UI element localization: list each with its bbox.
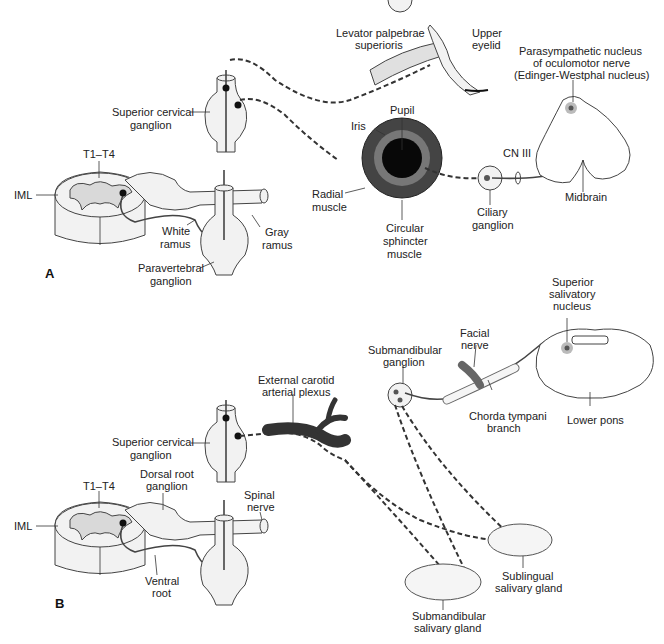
label-superior-cervical-ganglion-2: ganglion [130, 119, 172, 131]
panel-letter-b: B [55, 596, 64, 611]
label-paravertebral-ganglion: Paravertebral [138, 262, 204, 274]
label-ventral-root: Ventral [145, 575, 179, 587]
label-external-carotid: External carotid [258, 374, 334, 386]
label-superior-salivatory-nucleus-3: nucleus [553, 300, 591, 312]
label-dorsal-root-ganglion-2: ganglion [146, 480, 188, 492]
label-superior-cervical-ganglion: Superior cervical [112, 106, 194, 118]
preganglionic-neuron-a [120, 190, 127, 197]
label-chorda-tympani: Chorda tympani [469, 410, 547, 422]
label-dorsal-root-ganglion: Dorsal root [140, 468, 194, 480]
label-superior-salivatory-nucleus-2: salivatory [549, 288, 596, 300]
label-radial-muscle-2: muscle [312, 201, 347, 213]
label-ciliary-ganglion: Ciliary [477, 206, 508, 218]
label-paravertebral-ganglion-2: ganglion [150, 275, 192, 287]
label-external-carotid-2: arterial plexus [262, 386, 331, 398]
label-edinger-westphal-2: of oculomotor nerve [533, 57, 630, 69]
label-spinal-nerve-2: nerve [247, 501, 275, 513]
label-spinal-nerve: Spinal [244, 489, 275, 501]
label-white-ramus-2: ramus [160, 238, 191, 250]
submandibular-gland [405, 564, 481, 600]
label-white-ramus: White [162, 225, 190, 237]
label-sublingual-gland-2: salivary gland [495, 582, 562, 594]
label-facial-nerve-2: nerve [461, 339, 489, 351]
label-submandibular-ganglion-2: ganglion [383, 356, 425, 368]
label-t1-t4: T1–T4 [83, 480, 115, 492]
superior-cervical-ganglion-b [205, 400, 247, 482]
label-t1-t4: T1–T4 [83, 148, 115, 160]
sublingual-gland [488, 524, 552, 556]
panel-letter-a: A [45, 266, 55, 281]
external-carotid-artery [268, 400, 345, 442]
label-levator-palpebrae: Levator palpebrae [336, 27, 425, 39]
label-upper-eyelid-2: eyelid [472, 39, 501, 51]
label-levator-palpebrae-2: superioris [355, 39, 403, 51]
label-sublingual-gland: Sublingual [502, 570, 553, 582]
label-superior-salivatory-nucleus: Superior [552, 276, 594, 288]
label-iris: Iris [351, 120, 366, 132]
label-iml: IML [14, 520, 32, 532]
label-ventral-root-2: root [152, 587, 171, 599]
label-circular-sphincter-3: muscle [387, 248, 422, 260]
label-circular-sphincter-2: sphincter [383, 235, 428, 247]
label-upper-eyelid: Upper [472, 27, 502, 39]
submandibular-ganglion [388, 0, 412, 12]
dorsal-root-ganglion [125, 503, 262, 541]
dorsal-root-ganglion [125, 173, 262, 211]
label-ciliary-ganglion-2: ganglion [472, 219, 514, 231]
label-gray-ramus-2: ramus [262, 239, 293, 251]
label-iml: IML [14, 189, 32, 201]
label-cn-iii: CN III [503, 147, 531, 159]
label-midbrain: Midbrain [565, 191, 607, 203]
label-pupil: Pupil [390, 104, 414, 116]
label-circular-sphincter: Circular [386, 222, 424, 234]
label-superior-cervical-ganglion-2: ganglion [130, 449, 172, 461]
label-facial-nerve: Facial [460, 327, 489, 339]
postganglionic-to-iris [240, 99, 338, 160]
label-submandibular-gland: Submandibular [412, 610, 486, 622]
label-superior-cervical-ganglion: Superior cervical [112, 436, 194, 448]
label-lower-pons: Lower pons [567, 414, 624, 426]
label-radial-muscle: Radial [312, 188, 343, 200]
superior-cervical-ganglion-a [205, 70, 247, 152]
label-edinger-westphal: Parasympathetic nucleus [519, 45, 642, 57]
label-submandibular-gland-2: salivary gland [414, 622, 481, 634]
label-submandibular-ganglion: Submandibular [368, 344, 442, 356]
label-chorda-tympani-2: branch [487, 422, 521, 434]
panel-a: A Superior cervical ganglion T1–T4 IML W… [14, 25, 650, 287]
label-gray-ramus: Gray [265, 226, 289, 238]
panel-b: B Superior cervical ganglion T1–T4 IML D… [14, 0, 653, 634]
autonomic-pathway-diagram: A Superior cervical ganglion T1–T4 IML W… [0, 0, 664, 644]
label-edinger-westphal-3: (Edinger-Westphal nucleus) [514, 69, 650, 81]
